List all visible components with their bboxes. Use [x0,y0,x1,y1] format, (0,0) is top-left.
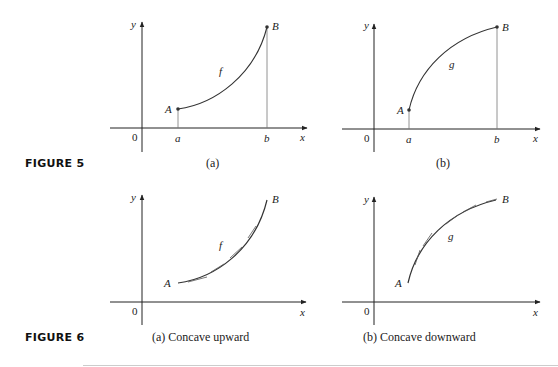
point-B-label: B [272,20,279,32]
curve-label: f [219,239,224,251]
x-axis-label: x [532,306,538,318]
y-axis-label: y [363,19,369,31]
point-A-dot [407,108,411,112]
panel-caption: (a) Concave upward [152,330,249,344]
curve-f [178,27,267,109]
curve-label: f [219,65,224,77]
figure5-label: FIGURE 5 [25,157,84,170]
curve-f [178,200,267,283]
panel-caption: (b) [436,156,450,170]
point-B-label: B [272,193,279,205]
point-A-label: A [396,104,404,116]
point-A-dot [176,107,180,111]
tick-a-label: a [406,133,412,145]
point-A-label: A [163,277,171,289]
tick-a-label: a [175,132,181,144]
figure6-panel-a: y x 0 A B f (a) Concave upward [110,191,306,344]
panel-caption: (a) [206,156,219,170]
tick-b-label: b [494,133,500,145]
figure5-panel-a: y x 0 a b A B f (a) [110,18,307,170]
point-A-label: A [164,103,172,115]
tick-b-label: b [264,132,270,144]
figure6-panel-b: y x 0 A B g (b) Concave downward [342,193,540,344]
figure-canvas: y x 0 a b A B f (a) y x 0 a b A B g (b) … [0,0,558,367]
y-axis-label: y [130,18,136,30]
figure6-label: FIGURE 6 [25,331,84,344]
x-axis-label: x [532,132,538,144]
y-axis-label: y [130,191,136,203]
origin-label: 0 [364,132,370,144]
point-A-label: A [394,277,402,289]
panel-caption: (b) Concave downward [363,330,476,344]
curve-label: g [449,58,455,70]
tangent-lines [188,226,256,282]
x-axis-label: x [299,131,305,143]
point-B-dot [495,25,499,29]
point-B-dot [265,25,269,29]
x-axis-label: x [299,306,305,318]
origin-label: 0 [364,305,370,317]
tangent-lines [415,199,497,265]
origin-label: 0 [132,131,138,143]
point-B-label: B [502,21,509,33]
curve-label: g [448,230,454,242]
point-B-label: B [502,193,509,205]
figure5-panel-b: y x 0 a b A B g (b) [342,19,540,170]
origin-label: 0 [132,305,138,317]
y-axis-label: y [363,193,369,205]
